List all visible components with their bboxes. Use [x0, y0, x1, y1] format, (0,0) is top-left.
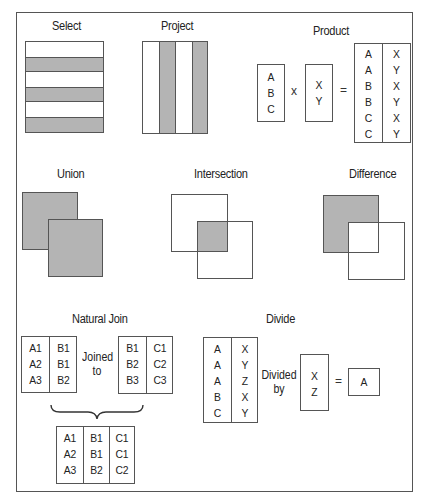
column-divider — [49, 337, 50, 392]
cell: B — [356, 79, 380, 95]
label-line: by — [261, 382, 296, 396]
cell: Y — [233, 406, 256, 422]
cell: B3 — [120, 373, 144, 389]
cell: B2 — [51, 373, 75, 389]
equals-operator: = — [335, 374, 342, 388]
select-row-selected — [26, 117, 103, 132]
difference-overlap-outline — [348, 222, 379, 253]
curly-brace-icon — [50, 403, 144, 421]
cell: B1 — [51, 341, 75, 357]
cell: C — [356, 111, 380, 127]
product-result-relation: A A B B C C X Y X Y X Y — [354, 43, 411, 143]
product-left-relation: A B C — [257, 64, 285, 122]
project-column-selected — [192, 42, 207, 133]
select-row-unselected — [26, 72, 103, 87]
cell: A3 — [58, 463, 81, 479]
select-row-selected — [26, 87, 103, 102]
label-line: Joined — [82, 350, 112, 364]
cell: Z — [233, 374, 256, 390]
column-divider — [83, 427, 84, 483]
select-table — [25, 41, 104, 133]
join-result-relation: A1 A2 A3 B1 B1 B2 C1 C1 C2 — [56, 426, 135, 484]
intersection-title: Intersection — [194, 167, 248, 181]
cell: A2 — [23, 357, 47, 373]
union-title: Union — [57, 167, 84, 181]
cell: C1 — [148, 341, 171, 357]
cell: B1 — [120, 341, 144, 357]
cell: C2 — [111, 463, 133, 479]
select-row-unselected — [26, 102, 103, 117]
cell: C — [356, 127, 380, 143]
select-title: Select — [52, 19, 81, 33]
cell: A2 — [58, 447, 81, 463]
project-table — [142, 41, 208, 134]
label-line: to — [82, 364, 112, 378]
equals-operator: = — [340, 83, 347, 97]
select-row-unselected — [26, 42, 103, 57]
cell: A3 — [23, 373, 47, 389]
join-right-relation: B1 B2 B3 C1 C2 C3 — [118, 336, 173, 394]
product-title: Product — [313, 24, 349, 38]
divide-result-relation: A — [348, 368, 380, 396]
cell: Y — [233, 358, 256, 374]
union-set-b — [48, 219, 103, 277]
project-column-unselected — [143, 42, 159, 133]
cell: B1 — [85, 447, 108, 463]
cell: A1 — [23, 341, 47, 357]
cell: X — [233, 342, 256, 358]
divide-dividend-relation: A A A B C X Y Z X Y — [203, 337, 258, 423]
cell: X — [384, 79, 408, 95]
cell: A — [356, 63, 380, 79]
column-divider — [109, 427, 110, 483]
cell: B2 — [120, 357, 144, 373]
intersection-overlap-outline — [197, 221, 228, 252]
join-left-relation: A1 A2 A3 B1 B1 B2 — [21, 336, 77, 393]
product-right-relation: X Y — [305, 64, 333, 122]
cell: C2 — [148, 357, 171, 373]
divide-title: Divide — [266, 312, 295, 326]
cell: Y — [384, 63, 408, 79]
joined-to-label: Joined to — [82, 350, 112, 378]
cell: A — [259, 70, 282, 86]
cell: A — [205, 342, 229, 358]
column-divider — [231, 338, 232, 422]
cell: C3 — [148, 373, 171, 389]
cell: X — [307, 78, 330, 94]
cell: B1 — [85, 431, 108, 447]
cell: X — [233, 390, 256, 406]
cell: C — [205, 406, 229, 422]
column-divider — [382, 44, 383, 142]
difference-title: Difference — [349, 167, 396, 181]
project-column-selected — [159, 42, 176, 133]
project-column-unselected — [176, 42, 192, 133]
cell: B — [205, 390, 229, 406]
divided-by-label: Divided by — [261, 368, 296, 396]
column-divider — [146, 337, 147, 393]
cell: A — [356, 47, 380, 63]
cell: A — [205, 358, 229, 374]
cell: C1 — [111, 431, 133, 447]
divide-divisor-relation: X Z — [300, 354, 329, 411]
cell: Z — [302, 385, 326, 401]
label-line: Divided — [261, 368, 296, 382]
cell: A1 — [58, 431, 81, 447]
cell: C1 — [111, 447, 133, 463]
cell: X — [384, 47, 408, 63]
cell: A — [205, 374, 229, 390]
cell: Y — [384, 95, 408, 111]
cell: B — [356, 95, 380, 111]
cell: C — [259, 102, 282, 118]
cell: Y — [384, 127, 408, 143]
cell: X — [384, 111, 408, 127]
times-operator: x — [291, 84, 297, 98]
cell: B2 — [85, 463, 108, 479]
cell: Y — [307, 94, 330, 110]
select-row-selected — [26, 57, 103, 72]
project-title: Project — [161, 19, 193, 33]
natural-join-title: Natural Join — [72, 312, 128, 326]
cell: B — [259, 86, 282, 102]
cell: B1 — [51, 357, 75, 373]
cell: X — [302, 369, 326, 385]
cell: A — [351, 375, 378, 391]
